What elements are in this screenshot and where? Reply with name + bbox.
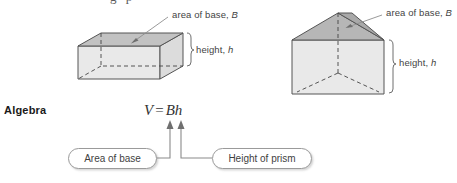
rect-prism-front-face — [78, 46, 160, 79]
callout-area-of-base-label: Area of base — [84, 153, 141, 164]
triangular-prism-figure — [292, 13, 396, 94]
right-callout-connector — [181, 129, 212, 158]
rectangular-prism-figure — [78, 17, 194, 79]
callout-height-of-prism-label: Height of prism — [228, 153, 295, 164]
rect-prism-height-brace — [187, 33, 194, 66]
volume-formula: V=Bh — [144, 102, 182, 119]
tri-prism-base-label: area of base, B — [386, 7, 452, 18]
rect-prism-height-label: height, h — [196, 44, 233, 55]
figure-page: g p — [0, 0, 457, 183]
tri-prism-height-brace — [389, 40, 396, 93]
left-callout-connector — [157, 129, 170, 158]
callout-height-of-prism: Height of prism — [212, 148, 312, 169]
callout-connectors — [157, 120, 212, 158]
tri-prism-height-label: height, h — [399, 57, 436, 68]
rect-prism-base-label: area of base, B — [172, 9, 238, 20]
right-callout-arrowhead — [178, 120, 185, 129]
algebra-section-label: Algebra — [4, 104, 46, 116]
left-callout-arrowhead — [167, 120, 174, 129]
callout-area-of-base: Area of base — [68, 148, 157, 169]
